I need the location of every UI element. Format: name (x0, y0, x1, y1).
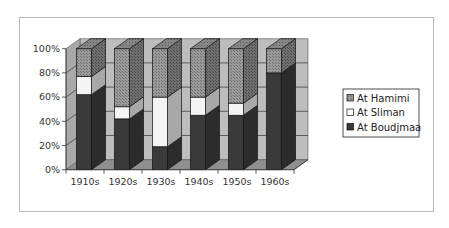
x-tick-label: 1930s (146, 176, 175, 187)
stacked-bar-chart: 0%20%40%60%80%100% 1910s1920s1930s1940s1… (0, 0, 449, 228)
bar-segment (229, 103, 244, 115)
bar-1950s (229, 39, 258, 170)
legend-label: At Boudjmaa (357, 122, 421, 133)
bar-segment (115, 107, 130, 119)
bar-segment (229, 49, 244, 103)
bar-segment (77, 49, 92, 77)
bar-segment (77, 77, 92, 95)
y-tick-label: 60% (39, 91, 60, 102)
legend-swatch-icon (347, 95, 354, 102)
bar-segment (153, 147, 168, 170)
bar-1930s (153, 39, 182, 170)
legend-item: At Boudjmaa (347, 122, 421, 133)
bar-1920s (115, 39, 144, 170)
y-tick-label: 80% (39, 67, 60, 78)
bar-1960s (267, 39, 296, 170)
y-tick-label: 0% (45, 164, 60, 175)
legend-swatch-icon (347, 109, 354, 116)
bar-segment (153, 49, 168, 97)
x-tick-label: 1910s (70, 176, 99, 187)
legend-label: At Sliman (357, 107, 405, 118)
y-tick-label: 100% (33, 43, 60, 54)
legend-item: At Hamimi (347, 93, 409, 104)
legend: At HamimiAt SlimanAt Boudjmaa (343, 89, 421, 137)
y-tick-label: 20% (39, 140, 60, 151)
bar-segment (229, 115, 244, 169)
bar-segment (267, 49, 282, 73)
x-tick-label: 1960s (260, 176, 289, 187)
bar-segment (191, 49, 206, 97)
bar-segment (191, 115, 206, 169)
legend-label: At Hamimi (357, 93, 409, 104)
x-tick-label: 1920s (108, 176, 137, 187)
bar-segment-side (168, 87, 182, 147)
x-tick-label: 1940s (184, 176, 213, 187)
bar-segment-side (206, 105, 220, 169)
bar-segment-side (282, 63, 296, 170)
x-tick-label: 1950s (222, 176, 251, 187)
y-tick-label: 40% (39, 116, 60, 127)
bar-segment (191, 97, 206, 115)
bar-segment-side (130, 109, 144, 170)
bar-segment-side (244, 39, 258, 103)
bar-segment (77, 95, 92, 170)
bar-segment (267, 73, 282, 170)
bar-segment-side (130, 39, 144, 107)
legend-swatch-icon (347, 124, 354, 131)
bar-segment-side (92, 85, 106, 170)
bar-segment-side (244, 105, 258, 169)
bar-segment (115, 49, 130, 107)
bar-segment (153, 97, 168, 147)
bar-1910s (77, 39, 106, 170)
bar-1940s (191, 39, 220, 170)
bar-segment (115, 119, 130, 170)
y-axis: 0%20%40%60%80%100% (33, 43, 66, 175)
